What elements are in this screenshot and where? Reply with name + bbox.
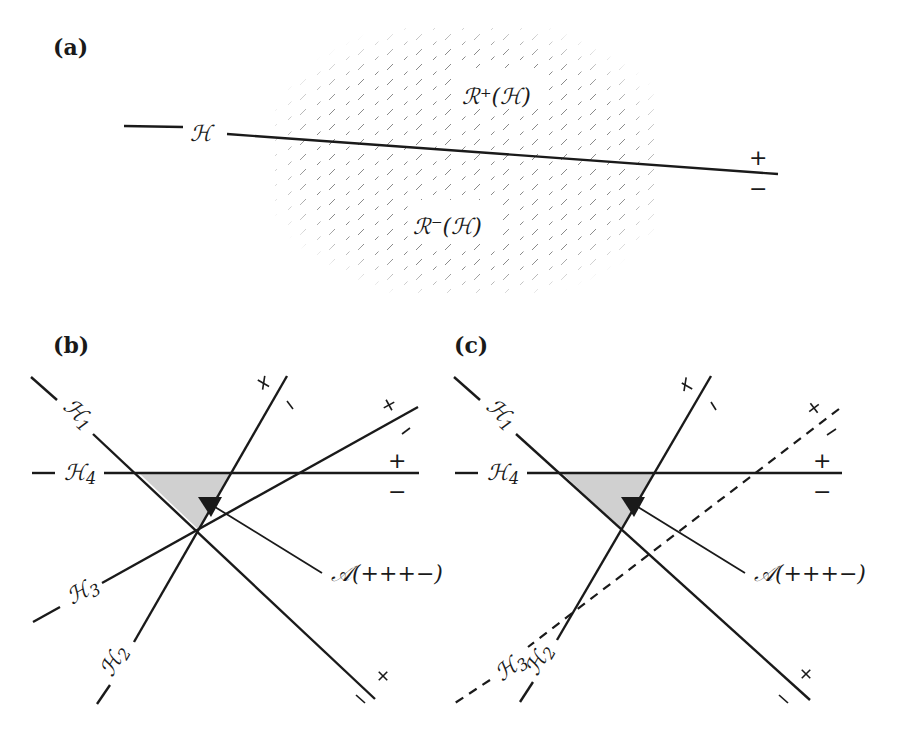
region-plus-label: ℛ⁺(ℋ): [462, 84, 531, 109]
hyperplane-h2-label: ℋ2: [95, 640, 135, 682]
h2-side-markers: [680, 377, 716, 410]
panel-b-label: (b): [53, 332, 89, 358]
region-label: 𝒜(+++−): [754, 561, 866, 586]
h3-side-markers: [384, 400, 410, 434]
hyperplane-h2-bottom-segment: [97, 685, 110, 704]
hyperplane-h2-bottom-segment: [520, 682, 533, 702]
hyperplane-h1-label: ℋ1: [57, 393, 100, 435]
h4-plus-sign: +: [388, 448, 406, 473]
h3-side-markers: [809, 403, 836, 435]
panel-b: (b) ℋ4 ℋ1 ℋ2 ℋ3 + −: [31, 332, 443, 704]
hyperplane-h3: [102, 407, 418, 583]
hyperplane-h1-top-segment: [31, 377, 57, 400]
panel-c-label: (c): [454, 332, 488, 358]
panel-a: (a) ℋ + − ℛ⁺(ℋ) ℛ⁻(ℋ): [53, 28, 778, 293]
region-minus-label: ℛ⁻(ℋ): [413, 214, 482, 239]
h4-minus-sign: −: [813, 479, 831, 504]
hyperplane-h3-bottom-segment: [33, 607, 60, 622]
plus-side-sign: +: [749, 145, 767, 170]
hyperplane-h-label: ℋ: [190, 121, 215, 146]
h4-plus-sign: +: [813, 448, 831, 473]
hyperplane-h1-label: ℋ1: [480, 393, 523, 435]
h1-side-markers: [356, 672, 387, 703]
hyperplane-h3-dashed-bottom-segment: [455, 680, 490, 703]
region-pointer-arrow: [638, 507, 745, 573]
hyperplane-h4-label: ℋ4: [64, 460, 96, 488]
minus-side-sign: −: [749, 176, 767, 201]
hyperplane-h1-top-segment: [454, 377, 480, 400]
hyperplane-h-left-segment: [124, 126, 183, 127]
panel-c: (c) ℋ4 ℋ1 ℋ2 ℋ3 + −: [454, 332, 866, 703]
hyperplane-h3-label: ℋ3: [490, 647, 533, 689]
h2-side-markers: [258, 376, 293, 409]
region-label: 𝒜(+++−): [331, 561, 443, 586]
h4-minus-sign: −: [388, 479, 406, 504]
hyperplane-h4-label: ℋ4: [487, 460, 519, 488]
hyperplane-h3-label: ℋ3: [62, 572, 104, 612]
figure-canvas: (a) ℋ + − ℛ⁺(ℋ) ℛ⁻(ℋ) (b) ℋ4 ℋ1 ℋ2 ℋ3: [0, 0, 909, 733]
panel-a-label: (a): [53, 34, 88, 60]
